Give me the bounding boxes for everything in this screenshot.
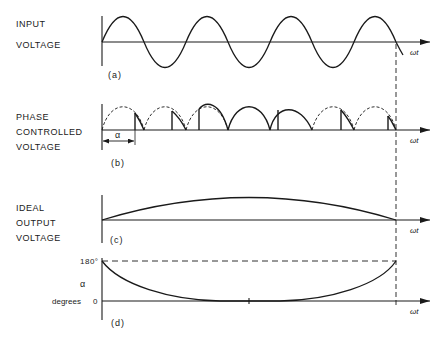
panel-d-unit-label: degrees <box>52 296 81 307</box>
panel-c-ideal-output <box>102 195 430 243</box>
panel-a-label-line1: INPUT <box>16 19 46 30</box>
panel-c-output-curve <box>102 198 396 221</box>
panel-b-label-line1: PHASE <box>16 112 49 123</box>
panel-c-axis-label: ωt <box>410 226 418 235</box>
panel-a-axis-label: ωt <box>410 48 418 57</box>
panel-c-label-line2: OUTPUT <box>16 218 56 229</box>
panel-b-caption: (b) <box>111 158 125 168</box>
panel-d-180-label: 180° <box>80 256 99 267</box>
panel-d-caption: (d) <box>111 318 125 328</box>
panel-b-phase-controlled <box>102 104 430 150</box>
panel-a-label-line2: VOLTAGE <box>16 40 61 51</box>
panel-b-solid-segments <box>135 104 396 130</box>
panel-d-alpha-curve-line <box>102 261 396 301</box>
panel-a-caption: (a) <box>108 70 122 80</box>
panel-c-label-line1: IDEAL <box>16 203 45 214</box>
panel-c-caption: (c) <box>110 235 124 245</box>
panel-d-zero-label: 0 <box>93 296 98 307</box>
panel-b-label-line3: VOLTAGE <box>16 142 61 153</box>
panel-a-input-voltage <box>102 16 430 68</box>
panel-d-axis-label: ωt <box>410 307 418 316</box>
panel-b-label-line2: CONTROLLED <box>16 127 83 138</box>
panel-b-axis-label: ωt <box>410 136 418 145</box>
panel-c-label-line3: VOLTAGE <box>16 233 61 244</box>
alpha-label: α <box>115 130 121 141</box>
panel-d-alpha-label: α <box>80 279 86 290</box>
panel-d-alpha-curve <box>102 258 430 320</box>
waveform-diagram <box>0 0 445 339</box>
